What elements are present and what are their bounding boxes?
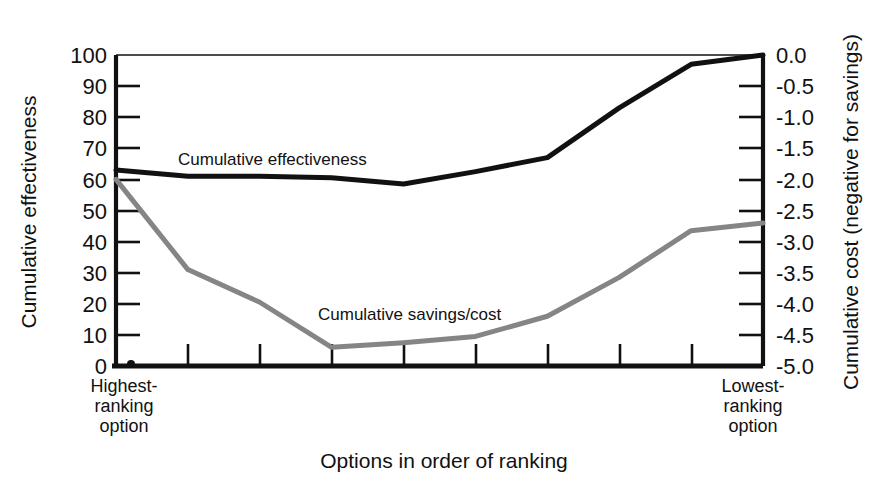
y-tick-label: 80 [83,105,107,130]
y2-tick-label: -0.5 [776,74,814,99]
x-axis-title: Options in order of ranking [320,449,567,472]
series-annotation-savings: Cumulative savings/cost [318,305,502,324]
x-cat-line: option [728,416,777,436]
y-tick-labels-left: 100 90 80 70 60 50 40 30 20 10 0 [70,43,107,379]
y2-tick-label: 0.0 [776,43,807,68]
y-axis-title-left: Cumulative effectiveness [17,95,40,328]
x-category-label-lowest: Lowest- ranking option [721,376,784,436]
y-tick-label: 70 [83,136,107,161]
y2-tick-label: -3.5 [776,261,814,286]
y-tick-label: 100 [70,43,107,68]
y-tick-label: 20 [83,292,107,317]
y-axis-ticks-left [116,86,140,335]
y2-tick-label: -2.5 [776,199,814,224]
x-category-label-highest: Highest- ranking option [90,376,157,436]
y-tick-label: 60 [83,168,107,193]
y2-tick-label: -1.0 [776,105,814,130]
y-tick-label: 40 [83,230,107,255]
x-cat-line: Lowest- [721,376,784,396]
origin-dot-marker [127,360,135,368]
y-tick-labels-right: 0.0 -0.5 -1.0 -1.5 -2.0 -2.5 -3.0 -3.5 -… [776,43,814,379]
y-tick-label: 90 [83,74,107,99]
y2-tick-label: -4.0 [776,292,814,317]
y2-tick-label: -3.0 [776,230,814,255]
y-tick-label: 50 [83,199,107,224]
x-cat-line: Highest- [90,376,157,396]
y2-tick-label: -1.5 [776,136,814,161]
y-tick-label: 10 [83,323,107,348]
x-cat-line: ranking [723,396,782,416]
y-tick-label: 30 [83,261,107,286]
y2-tick-label: -2.0 [776,168,814,193]
x-axis-ticks [188,344,692,366]
series-annotation-effectiveness: Cumulative effectiveness [178,150,367,169]
line-chart: 100 90 80 70 60 50 40 30 20 10 0 0.0 -0.… [0,0,889,494]
x-cat-line: option [99,416,148,436]
y-axis-title-right: Cumulative cost (negative for savings) [839,34,862,390]
y-axis-ticks-right [739,86,763,335]
y2-tick-label: -4.5 [776,323,814,348]
chart-figure: 100 90 80 70 60 50 40 30 20 10 0 0.0 -0.… [0,0,889,494]
x-cat-line: ranking [94,396,153,416]
